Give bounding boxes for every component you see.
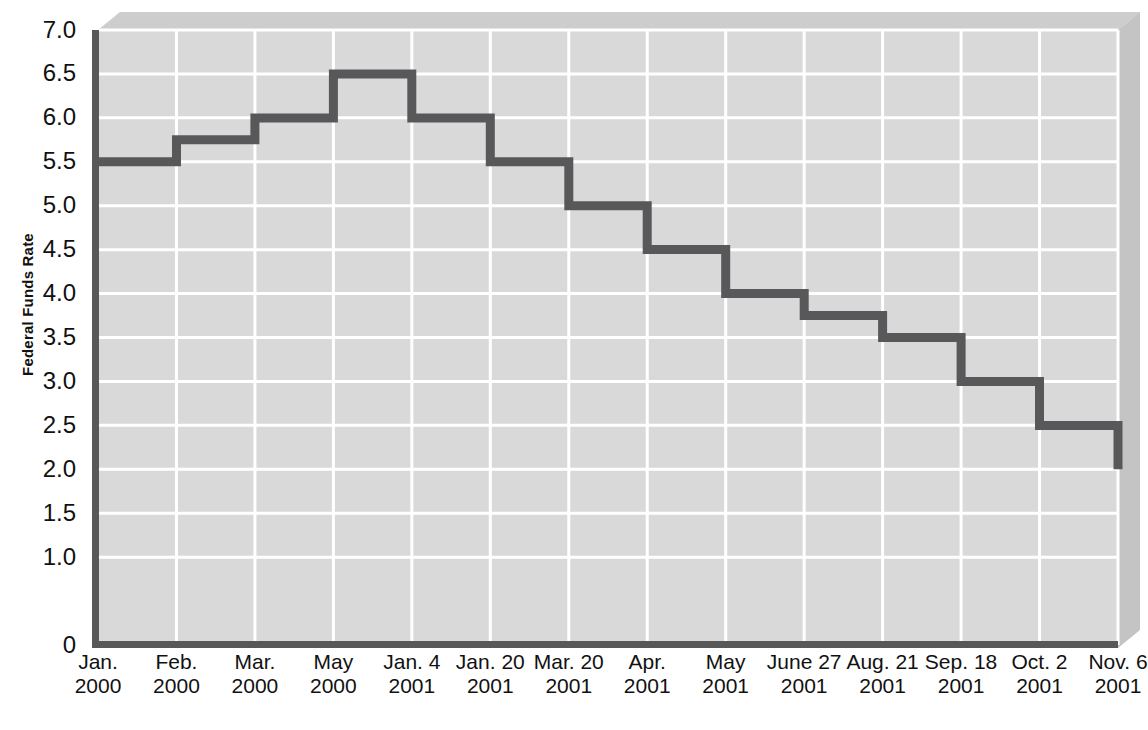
x-tick-line-1: Oct. 2 bbox=[1012, 650, 1068, 674]
x-tick-line-2: 2001 bbox=[1012, 674, 1068, 698]
x-axis-tick-label: June 272001 bbox=[767, 650, 842, 697]
x-tick-line-2: 2001 bbox=[534, 674, 604, 698]
x-axis-tick-label: Aug. 212001 bbox=[846, 650, 918, 697]
x-tick-line-1: Jan. 4 bbox=[383, 650, 440, 674]
x-tick-line-2: 2001 bbox=[767, 674, 842, 698]
x-axis-tick-label: May2001 bbox=[702, 650, 749, 697]
x-tick-line-2: 2001 bbox=[624, 674, 671, 698]
x-tick-line-2: 2001 bbox=[925, 674, 997, 698]
x-tick-line-2: 2000 bbox=[75, 674, 122, 698]
x-axis-tick-label: Oct. 22001 bbox=[1012, 650, 1068, 697]
x-tick-line-1: Apr. bbox=[624, 650, 671, 674]
x-tick-line-1: Mar. bbox=[232, 650, 279, 674]
x-tick-line-2: 2000 bbox=[153, 674, 200, 698]
x-tick-line-1: Feb. bbox=[153, 650, 200, 674]
x-axis-tick-label: Nov. 62001 bbox=[1088, 650, 1147, 697]
x-tick-line-1: Sep. 18 bbox=[925, 650, 997, 674]
x-axis-tick-label: Mar.2000 bbox=[232, 650, 279, 697]
x-axis-tick-label: Jan. 202001 bbox=[456, 650, 525, 697]
x-tick-line-1: Mar. 20 bbox=[534, 650, 604, 674]
x-axis-tick-label: May2000 bbox=[310, 650, 357, 697]
x-tick-line-1: May bbox=[702, 650, 749, 674]
x-tick-line-2: 2001 bbox=[1088, 674, 1147, 698]
x-tick-line-1: May bbox=[310, 650, 357, 674]
x-axis-tick-label: Sep. 182001 bbox=[925, 650, 997, 697]
x-axis-tick-labels: Jan.2000Feb.2000Mar.2000May2000Jan. 4200… bbox=[0, 650, 1144, 730]
x-tick-line-2: 2000 bbox=[232, 674, 279, 698]
x-axis-tick-label: Apr.2001 bbox=[624, 650, 671, 697]
x-axis-tick-label: Feb.2000 bbox=[153, 650, 200, 697]
x-axis-tick-label: Jan. 42001 bbox=[383, 650, 440, 697]
x-tick-line-2: 2001 bbox=[846, 674, 918, 698]
x-tick-line-1: Jan. bbox=[75, 650, 122, 674]
x-tick-line-2: 2001 bbox=[702, 674, 749, 698]
x-tick-line-1: Aug. 21 bbox=[846, 650, 918, 674]
plot-bevel-right bbox=[1118, 12, 1140, 648]
x-tick-line-2: 2000 bbox=[310, 674, 357, 698]
x-tick-line-2: 2001 bbox=[383, 674, 440, 698]
x-axis-tick-label: Jan.2000 bbox=[75, 650, 122, 697]
x-tick-line-2: 2001 bbox=[456, 674, 525, 698]
x-tick-line-1: Jan. 20 bbox=[456, 650, 525, 674]
x-tick-line-1: June 27 bbox=[767, 650, 842, 674]
plot-bevel-top bbox=[98, 12, 1140, 30]
x-axis-tick-label: Mar. 202001 bbox=[534, 650, 604, 697]
x-tick-line-1: Nov. 6 bbox=[1088, 650, 1147, 674]
